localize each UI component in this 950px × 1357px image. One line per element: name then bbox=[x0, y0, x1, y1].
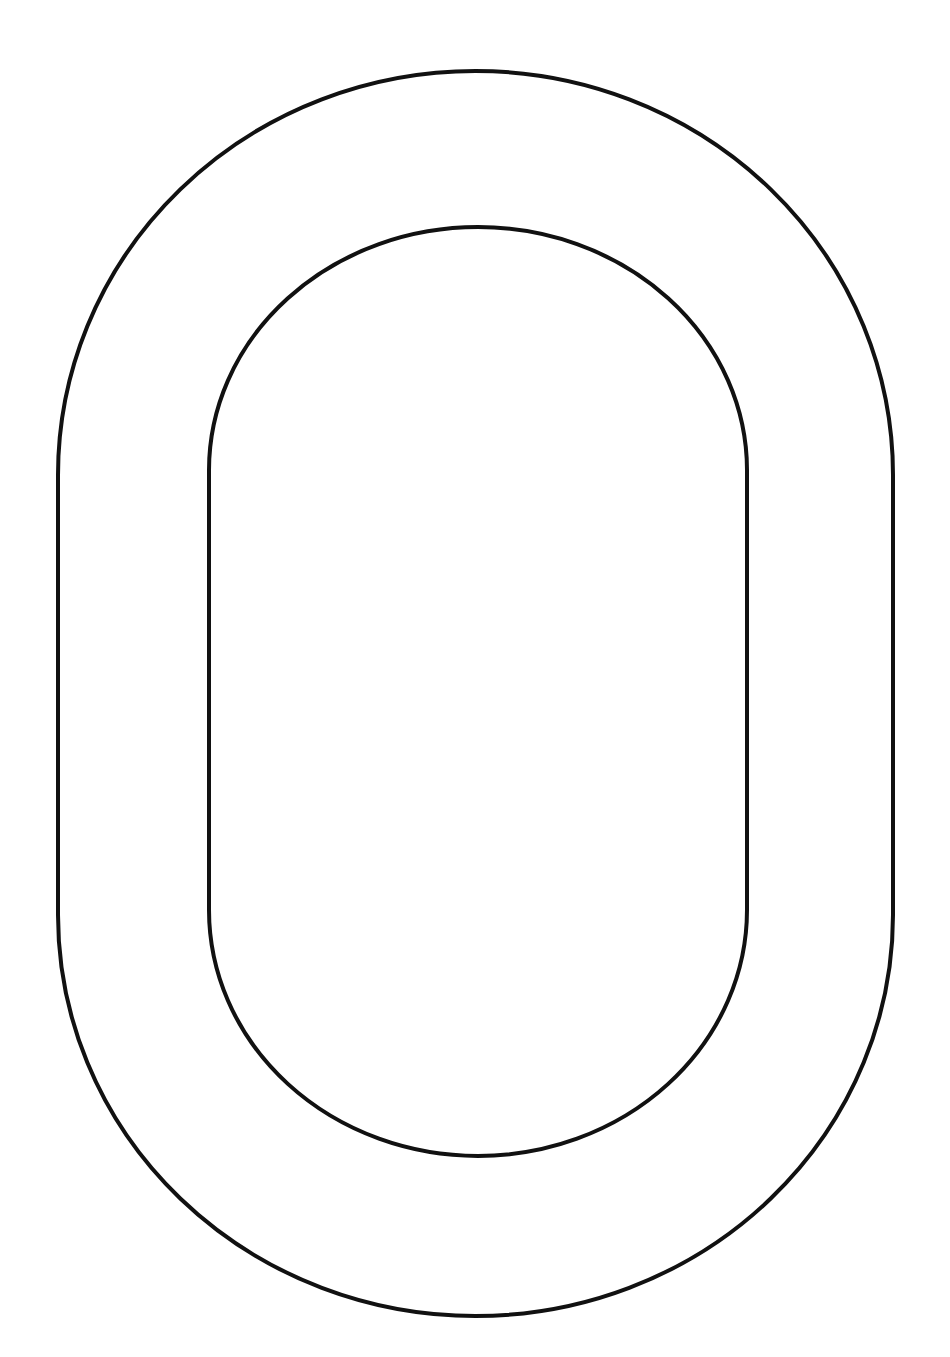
outer-outline bbox=[58, 71, 893, 1316]
letter-o-drawing bbox=[0, 0, 950, 1357]
inner-outline bbox=[209, 227, 747, 1156]
